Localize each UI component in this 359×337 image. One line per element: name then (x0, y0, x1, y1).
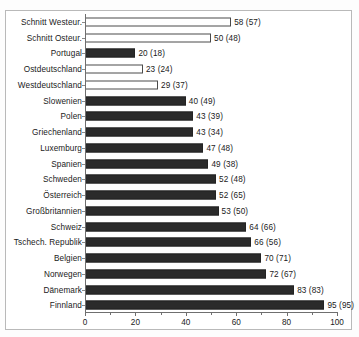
bar (85, 96, 186, 105)
x-axis-minor-tick (161, 312, 162, 315)
bar-category-label: Griechenland (32, 128, 82, 137)
bar-value-label: 83 (83) (297, 285, 324, 294)
bar-value-label: 66 (56) (254, 238, 281, 247)
bar-category-label: Schnitt Westeur. (21, 17, 82, 26)
x-axis-minor-tick (261, 312, 262, 315)
bar (85, 65, 143, 74)
bar-row: Österreich52 (65) (0, 187, 359, 203)
bar-row: Schnitt Westeur.58 (57) (0, 14, 359, 30)
bar-value-label: 50 (48) (214, 33, 241, 42)
bar-row: Spanien49 (38) (0, 156, 359, 172)
x-axis-tick-label: 40 (181, 318, 190, 327)
bar-category-label: Ostdeutschland (24, 65, 82, 74)
bar-value-label: 20 (18) (138, 49, 165, 58)
bar-row: Dänemark83 (83) (0, 282, 359, 298)
bar-value-label: 53 (50) (222, 206, 249, 215)
bar (85, 33, 211, 42)
x-axis-tick-label: 100 (330, 318, 344, 327)
bar-row: Finnland95 (95) (0, 298, 359, 314)
bar (85, 191, 216, 200)
y-axis-line (85, 14, 86, 312)
bar-value-label: 64 (66) (249, 222, 276, 231)
bar-category-label: Finnland (50, 301, 82, 310)
bar (85, 269, 266, 278)
bar-row: Portugal20 (18) (0, 46, 359, 62)
bar (85, 112, 193, 121)
bar-category-label: Spanien (51, 159, 82, 168)
bar-category-label: Schweden (43, 175, 82, 184)
bar-category-label: Dänemark (43, 285, 82, 294)
bar-category-label: Belgien (54, 254, 82, 263)
x-axis-tick-label: 60 (232, 318, 241, 327)
bar-row: Griechenland43 (34) (0, 124, 359, 140)
x-axis-tick (135, 312, 136, 316)
bar (85, 128, 193, 137)
bar (85, 238, 251, 247)
bar-row: Schweden52 (48) (0, 172, 359, 188)
x-axis-tick (85, 312, 86, 316)
bar-value-label: 49 (38) (211, 159, 238, 168)
bar-row: Luxemburg47 (48) (0, 140, 359, 156)
bar-value-label: 52 (48) (219, 175, 246, 184)
bar (85, 285, 294, 294)
bar-value-label: 70 (71) (264, 254, 291, 263)
bar (85, 301, 324, 310)
x-axis-tick-label: 80 (282, 318, 291, 327)
plot-area: Schnitt Westeur.58 (57)Schnitt Osteur.50… (0, 0, 359, 337)
bar-row: Schnitt Osteur.50 (48) (0, 30, 359, 46)
bar-value-label: 72 (67) (269, 269, 296, 278)
bar-value-label: 43 (34) (196, 128, 223, 137)
x-axis-tick (287, 312, 288, 316)
x-axis-tick (236, 312, 237, 316)
bar-row: Großbritannien53 (50) (0, 203, 359, 219)
x-axis-tick-label: 0 (83, 318, 88, 327)
bar-row: Belgien70 (71) (0, 250, 359, 266)
bar-row: Tschech. Republik66 (56) (0, 235, 359, 251)
bar-category-label: Portugal (51, 49, 82, 58)
bar-value-label: 52 (65) (219, 191, 246, 200)
bar (85, 175, 216, 184)
bar-category-label: Österreich (43, 191, 82, 200)
bar-row: Ostdeutschland23 (24) (0, 61, 359, 77)
bar-row: Polen43 (39) (0, 109, 359, 125)
bar (85, 159, 208, 168)
bar (85, 254, 261, 263)
bar-category-label: Großbritannien (26, 206, 82, 215)
x-axis-minor-tick (110, 312, 111, 315)
bar-value-label: 47 (48) (206, 143, 233, 152)
bar-value-label: 40 (49) (189, 96, 216, 105)
x-axis-tick (186, 312, 187, 316)
bar-value-label: 58 (57) (234, 17, 261, 26)
bar (85, 17, 231, 26)
bar-value-label: 23 (24) (146, 65, 173, 74)
bar-category-label: Schweiz (51, 222, 82, 231)
bar-category-label: Slowenien (43, 96, 82, 105)
bar (85, 206, 219, 215)
x-axis-minor-tick (312, 312, 313, 315)
bar (85, 143, 203, 152)
bar-row: Westdeutschland29 (37) (0, 77, 359, 93)
bar-value-label: 95 (95) (327, 301, 354, 310)
bar-row: Schweiz64 (66) (0, 219, 359, 235)
bar-category-label: Luxemburg (40, 143, 82, 152)
bar-value-label: 29 (37) (161, 80, 188, 89)
bar-value-label: 43 (39) (196, 112, 223, 121)
x-axis-minor-tick (211, 312, 212, 315)
bar-row: Norwegen72 (67) (0, 266, 359, 282)
bar-row: Slowenien40 (49) (0, 93, 359, 109)
bar-category-label: Schnitt Osteur. (27, 33, 82, 42)
x-axis-tick-label: 20 (131, 318, 140, 327)
bar-category-label: Norwegen (44, 269, 82, 278)
bar-category-label: Westdeutschland (18, 80, 82, 89)
bar (85, 49, 135, 58)
chart-root: Schnitt Westeur.58 (57)Schnitt Osteur.50… (0, 0, 359, 337)
bar-category-label: Polen (61, 112, 82, 121)
x-axis-tick (337, 312, 338, 316)
bar-category-label: Tschech. Republik (14, 238, 82, 247)
bar (85, 80, 158, 89)
bar (85, 222, 246, 231)
